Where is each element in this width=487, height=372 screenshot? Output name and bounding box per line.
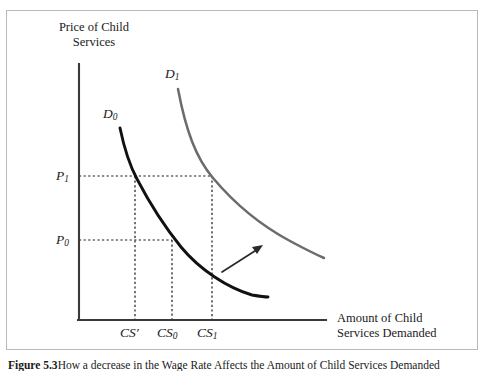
figure-caption: Figure 5.3How a decrease in the Wage Rat… xyxy=(8,359,478,371)
x-tick-label-cs-prime-text: CS xyxy=(120,325,136,340)
reference-lines xyxy=(79,176,212,320)
x-tick-label-cs0-sub: 0 xyxy=(173,331,178,341)
x-tick-label-cs-prime: CS′ xyxy=(120,325,139,341)
x-tick-label-cs1-sub: 1 xyxy=(213,331,218,341)
curve-label-d1: D1 xyxy=(165,66,179,82)
x-tick-label-cs1: CS1 xyxy=(197,325,217,341)
x-tick-label-cs-prime-sub: ′ xyxy=(136,325,139,340)
y-tick-label-p0-sub: 0 xyxy=(64,238,69,248)
y-tick-label-p0: P0 xyxy=(56,232,69,248)
curve-label-d0-text: D xyxy=(103,106,113,121)
y-tick-label-p0-text: P xyxy=(56,232,64,247)
curve-label-d1-text: D xyxy=(165,66,175,81)
y-axis-title: Price of Child Services xyxy=(34,20,154,51)
axes xyxy=(78,64,326,320)
shift-arrow xyxy=(222,245,263,272)
y-tick-label-p1: P1 xyxy=(56,168,69,184)
x-tick-label-cs1-text: CS xyxy=(197,325,213,340)
curve-label-d1-sub: 1 xyxy=(175,72,180,82)
curve-label-d0-sub: 0 xyxy=(113,112,118,122)
x-tick-label-cs0-text: CS xyxy=(157,325,173,340)
figure-caption-text: How a decrease in the Wage Rate Affects … xyxy=(58,359,440,371)
x-axis-title: Amount of Child Services Demanded xyxy=(337,311,477,342)
y-tick-label-p1-text: P xyxy=(56,168,64,183)
curve-label-d0: D0 xyxy=(103,106,117,122)
x-tick-label-cs0: CS0 xyxy=(157,325,177,341)
demand-curve-d1 xyxy=(178,89,324,258)
figure-caption-label: Figure 5.3 xyxy=(8,359,58,371)
y-tick-label-p1-sub: 1 xyxy=(64,174,69,184)
